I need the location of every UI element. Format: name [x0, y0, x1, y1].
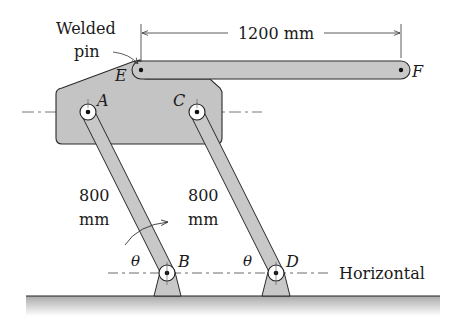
welded-label: Welded — [56, 19, 116, 38]
point-label-F: F — [411, 62, 424, 81]
linkage-diagram: 1200 mm Welded pin E F A C B D 800 mm 80… — [0, 0, 459, 328]
dimension-EF-label: 1200 mm — [238, 24, 314, 43]
angle-theta-B: θ — [131, 252, 140, 270]
point-label-B: B — [177, 252, 190, 271]
horizontal-label: Horizontal — [339, 264, 425, 283]
point-label-A: A — [95, 91, 109, 110]
angle-theta-D: θ — [243, 252, 252, 270]
pin-F — [399, 68, 403, 72]
link-CD-length-unit: mm — [188, 210, 218, 229]
pin-label: pin — [74, 42, 100, 61]
link-AB-length-value: 800 — [79, 186, 110, 205]
point-label-E: E — [114, 66, 127, 85]
bar-EF — [132, 61, 410, 79]
link-CD-length-value: 800 — [188, 186, 219, 205]
dimension-EF: 1200 mm — [141, 24, 401, 62]
point-label-C: C — [173, 91, 185, 110]
pin-E — [139, 68, 143, 72]
link-AB-length-unit: mm — [79, 210, 109, 229]
point-label-D: D — [285, 252, 299, 271]
ground — [26, 296, 440, 316]
